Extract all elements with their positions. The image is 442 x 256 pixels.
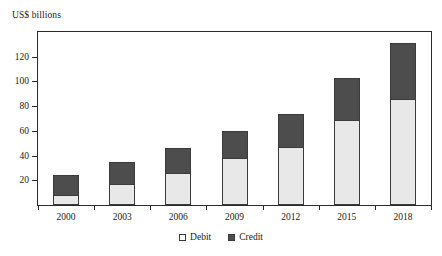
legend-label-credit: Credit [239,232,263,242]
x-axis-tick-label: 2012 [281,212,300,222]
bar-segment-debit [165,173,191,205]
y-axis-tick-label: 20 [20,175,30,185]
x-axis-tick [263,205,264,210]
x-axis-tick [319,205,320,210]
bar-segment-credit [222,131,248,158]
y-axis-tick-label: 80 [20,101,30,111]
bar-segment-credit [165,148,191,173]
plot-inner: 2040608010012020002003200620092012201520… [38,32,431,205]
y-axis-tick [32,180,38,181]
bar-segment-credit [53,175,79,195]
bar-segment-credit [334,78,360,120]
bar-segment-debit [390,99,416,205]
bar-segment-debit [109,184,135,205]
bar-stack [390,43,416,205]
y-axis-tick-label: 60 [20,126,30,136]
bar-stack [222,131,248,205]
y-axis-tick [32,106,38,107]
bar-segment-credit [278,114,304,147]
x-axis-tick-label: 2015 [337,212,356,222]
x-axis-tick [94,205,95,210]
x-axis-tick-label: 2009 [225,212,244,222]
x-axis-tick-label: 2018 [393,212,412,222]
bar-segment-debit [334,120,360,205]
x-axis-tick [206,205,207,210]
y-axis-tick [32,81,38,82]
bar-segment-debit [222,158,248,205]
legend-item-credit: Credit [228,232,263,242]
chart-legend: Debit Credit [0,232,442,242]
y-axis-tick-label: 100 [15,76,29,86]
bar-segment-credit [390,43,416,99]
chart-figure: US$ billions 204060801001202000200320062… [0,0,442,256]
x-axis-tick [431,205,432,210]
x-axis-tick [375,205,376,210]
y-axis-unit-label: US$ billions [12,10,61,20]
legend-item-debit: Debit [179,232,211,242]
y-axis-tick-label: 40 [20,151,30,161]
legend-swatch-debit [179,234,186,241]
x-axis-tick-label: 2000 [57,212,76,222]
bar-stack [165,148,191,205]
x-axis-tick [150,205,151,210]
bar-stack [53,175,79,205]
bar-segment-debit [278,147,304,205]
x-axis-tick-label: 2006 [169,212,188,222]
y-axis-tick-label: 120 [15,52,29,62]
legend-swatch-credit [228,234,235,241]
x-axis-tick [38,205,39,210]
bar-stack [278,114,304,205]
x-axis-tick-label: 2003 [113,212,132,222]
bar-segment-credit [109,162,135,184]
plot-area: 2040608010012020002003200620092012201520… [37,31,432,206]
y-axis-tick [32,57,38,58]
y-axis-tick [32,156,38,157]
bar-stack [334,78,360,205]
bar-segment-debit [53,195,79,205]
y-axis-tick [32,131,38,132]
bar-stack [109,162,135,205]
legend-label-debit: Debit [190,232,211,242]
